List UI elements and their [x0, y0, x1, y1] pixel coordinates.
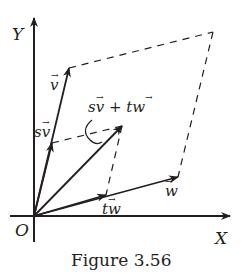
dashed-v-to-vw: [69, 32, 213, 68]
label-pointer-curve: [85, 120, 102, 144]
vector-diagram: Y X O v → sv → sv + tw → → tw → w → Figu…: [0, 0, 246, 274]
arrow-over-tw-in-sum: →: [145, 92, 153, 102]
figure-caption: Figure 3.56: [71, 250, 172, 270]
x-axis-label: X: [213, 228, 228, 248]
dashed-svtw-to-tw: [106, 126, 122, 195]
arrow-over-tw: →: [108, 194, 116, 204]
dashed-sv-to-svtw: [52, 126, 122, 143]
y-axis-label: Y: [12, 24, 25, 44]
arrow-over-w: →: [165, 176, 173, 186]
origin-label: O: [15, 220, 29, 240]
arrow-over-sv: →: [42, 117, 50, 127]
dashed-vw-to-w: [178, 32, 213, 177]
vector-sv-arrow: [34, 143, 52, 216]
arrow-over-sv-in-sum: →: [96, 92, 104, 102]
arrow-over-v: →: [51, 70, 59, 80]
